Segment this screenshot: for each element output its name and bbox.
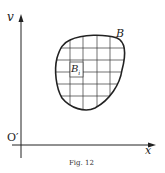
origin-label: O′ [7,131,19,144]
figure-caption: Fig. 12 [69,159,94,167]
diagram-canvas [0,0,165,173]
region-label: B [116,27,124,40]
y-axis-arrow-icon [19,14,24,22]
axis-y-label: v [7,10,14,24]
figure: v x O′ B Bi Fig. 12 [0,0,165,173]
axis-x-label: x [145,144,151,157]
cell-label: Bi [71,63,80,76]
grid [50,30,130,115]
region-b-boundary [56,35,125,110]
